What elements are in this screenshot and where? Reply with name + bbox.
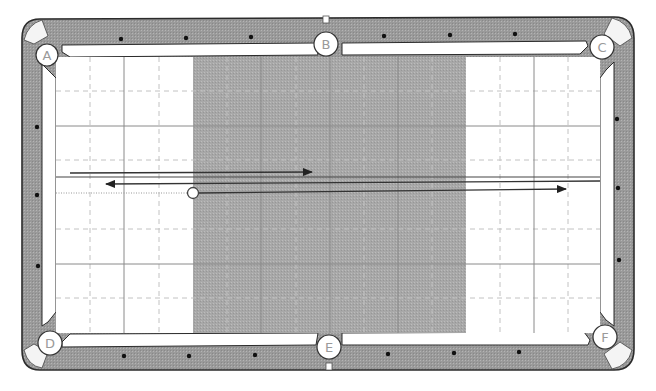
pocket-B: B <box>314 32 338 56</box>
pocket-label-C: C <box>597 40 606 55</box>
pocket-C: C <box>590 35 614 59</box>
pocket-A: A <box>36 44 58 66</box>
pocket-D: D <box>38 331 62 355</box>
pocket-F: F <box>593 325 617 349</box>
cue-ball <box>188 188 199 199</box>
billiard-table-diagram: A B C D E F <box>0 0 656 391</box>
pocket-E: E <box>317 335 341 359</box>
bottom-middle-tab <box>326 363 332 370</box>
pocket-label-E: E <box>325 340 333 355</box>
top-middle-tab <box>323 16 329 23</box>
pocket-label-D: D <box>45 336 55 351</box>
pocket-label-B: B <box>322 37 331 52</box>
pocket-label-A: A <box>43 48 52 63</box>
pocket-label-F: F <box>601 330 608 345</box>
